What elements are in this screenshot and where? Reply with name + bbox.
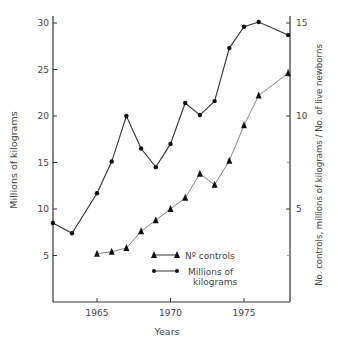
- axes: [53, 16, 290, 302]
- triangle-marker-icon: [138, 227, 144, 234]
- legend: Nº controls Millions of kilograms: [151, 251, 237, 287]
- legend-label-controls: Nº controls: [185, 251, 235, 261]
- series-layer: [51, 20, 291, 257]
- left-tick-label: 30: [38, 18, 50, 28]
- left-tick-label: 25: [38, 65, 49, 75]
- left-tick-label: 10: [38, 204, 50, 214]
- x-tick-label: 1965: [86, 308, 109, 318]
- right-tick-label: 10: [296, 111, 308, 121]
- right-y-axis-label: No. controls, millions of kilograms / No…: [314, 44, 324, 286]
- triangle-marker-icon: [241, 121, 247, 128]
- kilograms-line: [53, 22, 288, 233]
- triangle-marker-icon: [226, 157, 232, 164]
- legend-label-kilograms-line1: Millions of: [188, 267, 234, 277]
- circle-marker-icon: [168, 142, 172, 146]
- circle-marker-icon: [227, 46, 231, 50]
- left-y-axis-label: Millions of kilograms: [8, 111, 19, 208]
- left-tick-label: 5: [43, 251, 49, 261]
- circle-marker-icon: [198, 113, 202, 117]
- circle-marker-icon: [286, 33, 290, 37]
- x-axis-label: Years: [153, 326, 179, 337]
- circle-marker-icon: [110, 159, 114, 163]
- circle-marker-icon: [51, 221, 55, 225]
- circle-marker-icon: [212, 99, 216, 103]
- circle-marker-icon: [70, 231, 74, 235]
- triangle-marker-icon: [153, 216, 159, 223]
- circle-marker-icon: [154, 165, 158, 169]
- triangle-marker-icon: [168, 205, 174, 212]
- legend-label-kilograms-line2: kilograms: [193, 277, 237, 287]
- circle-marker-icon: [183, 101, 187, 105]
- dual-axis-line-chart: 51015202530 51015 196519701975 Years Mil…: [0, 0, 338, 347]
- x-ticks: 196519701975: [86, 298, 256, 318]
- x-tick-label: 1970: [159, 308, 182, 318]
- triangle-marker-icon: [197, 170, 203, 177]
- left-tick-label: 15: [38, 158, 49, 168]
- circle-marker-icon: [152, 269, 156, 273]
- controls-line: [97, 73, 288, 253]
- x-tick-label: 1975: [233, 308, 256, 318]
- circle-marker-icon: [242, 25, 246, 29]
- circle-marker-icon: [175, 269, 179, 273]
- legend-item-kilograms: Millions of kilograms: [152, 267, 237, 287]
- legend-item-controls: Nº controls: [151, 251, 235, 261]
- circle-marker-icon: [95, 191, 99, 195]
- right-y-ticks: 51015: [286, 18, 308, 256]
- right-tick-label: 5: [296, 204, 302, 214]
- circle-marker-icon: [139, 146, 143, 150]
- right-tick-label: 15: [296, 18, 307, 28]
- triangle-marker-icon: [256, 92, 262, 99]
- circle-marker-icon: [257, 20, 261, 24]
- left-tick-label: 20: [38, 111, 50, 121]
- circle-marker-icon: [124, 114, 128, 118]
